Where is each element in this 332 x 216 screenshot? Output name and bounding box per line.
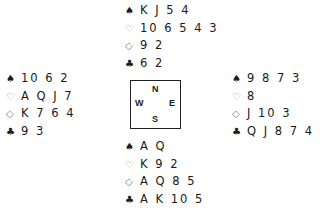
west-spades: ♠10 6 2: [6, 70, 75, 88]
hand-east: ♠9 8 7 3 ♡8 ◇J 10 3 ♣Q J 8 7 4: [232, 70, 314, 140]
cards: 9 3: [21, 123, 45, 141]
west-diamonds: ◇K 7 6 4: [6, 105, 75, 123]
heart-icon: ♡: [6, 88, 21, 106]
hand-north: ♠K J 5 4 ♡10 6 5 4 3 ◇9 2 ♣6 2: [125, 2, 219, 72]
south-hearts: ♡K 9 2: [125, 156, 204, 174]
cards: 9 8 7 3: [247, 70, 301, 88]
north-hearts: ♡10 6 5 4 3: [125, 20, 219, 38]
compass-east: E: [169, 98, 175, 108]
north-spades: ♠K J 5 4: [125, 2, 219, 20]
west-clubs: ♣9 3: [6, 123, 75, 141]
cards: K 9 2: [140, 156, 180, 174]
east-diamonds: ◇J 10 3: [232, 105, 314, 123]
spade-icon: ♠: [232, 70, 247, 88]
south-clubs: ♣A K 10 5: [125, 191, 204, 209]
cards: 10 6 2: [21, 70, 70, 88]
compass-west: W: [135, 98, 144, 108]
cards: 6 2: [140, 55, 164, 73]
cards: Q J 8 7 4: [247, 123, 314, 141]
hand-south: ♠A Q ♡K 9 2 ◇A Q 8 5 ♣A K 10 5: [125, 138, 204, 208]
east-spades: ♠9 8 7 3: [232, 70, 314, 88]
cards: 10 6 5 4 3: [140, 20, 219, 38]
south-diamonds: ◇A Q 8 5: [125, 173, 204, 191]
club-icon: ♣: [125, 55, 140, 73]
south-spades: ♠A Q: [125, 138, 204, 156]
heart-icon: ♡: [125, 156, 140, 174]
compass-south: S: [152, 114, 158, 124]
hand-west: ♠10 6 2 ♡A Q J 7 ◇K 7 6 4 ♣9 3: [6, 70, 75, 140]
cards: A Q J 7: [21, 88, 74, 106]
club-icon: ♣: [232, 123, 247, 141]
cards: A Q 8 5: [140, 173, 197, 191]
cards: A Q: [140, 138, 167, 156]
compass-north: N: [152, 84, 159, 94]
diamond-icon: ◇: [6, 105, 21, 123]
cards: K J 5 4: [140, 2, 191, 20]
diamond-icon: ◇: [125, 173, 140, 191]
spade-icon: ♠: [125, 2, 140, 20]
diamond-icon: ◇: [232, 105, 247, 123]
north-diamonds: ◇9 2: [125, 37, 219, 55]
diamond-icon: ◇: [125, 37, 140, 55]
spade-icon: ♠: [125, 138, 140, 156]
club-icon: ♣: [6, 123, 21, 141]
heart-icon: ♡: [125, 20, 140, 38]
club-icon: ♣: [125, 191, 140, 209]
cards: J 10 3: [247, 105, 292, 123]
cards: A K 10 5: [140, 191, 204, 209]
east-clubs: ♣Q J 8 7 4: [232, 123, 314, 141]
north-clubs: ♣6 2: [125, 55, 219, 73]
cards: 8: [247, 88, 256, 106]
heart-icon: ♡: [232, 88, 247, 106]
west-hearts: ♡A Q J 7: [6, 88, 75, 106]
spade-icon: ♠: [6, 70, 21, 88]
cards: 9 2: [140, 37, 164, 55]
compass-box: N W E S: [130, 80, 181, 129]
cards: K 7 6 4: [21, 105, 75, 123]
east-hearts: ♡8: [232, 88, 314, 106]
